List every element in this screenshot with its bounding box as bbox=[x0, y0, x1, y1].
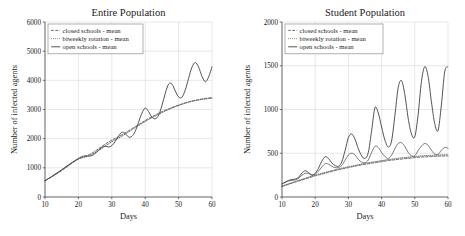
y-axis-label: Number of infected agents bbox=[243, 65, 252, 154]
legend-label: open schools - mean bbox=[300, 43, 355, 50]
legend-label: open schools - mean bbox=[63, 43, 118, 50]
y-tick-label: 2000 bbox=[264, 19, 279, 27]
y-tick-label: 1000 bbox=[27, 164, 42, 172]
legend-label: biweekly rotation - mean bbox=[63, 35, 130, 42]
chart-title: Entire Population bbox=[92, 7, 167, 18]
x-tick-label: 10 bbox=[41, 201, 49, 209]
y-tick-label: 2000 bbox=[27, 135, 42, 143]
student-population-plot: 0500100015002000102030405060Student Popu… bbox=[232, 0, 465, 236]
y-axis-label: Number of infected agents bbox=[10, 65, 19, 154]
y-tick-label: 500 bbox=[267, 150, 278, 158]
chart-legend: closed schools - meanbiweekly rotation -… bbox=[48, 24, 143, 54]
chart-legend: closed schools - meanbiweekly rotation -… bbox=[285, 24, 383, 54]
figure-container: 0100020003000400050006000102030405060Ent… bbox=[0, 0, 465, 236]
legend-label: closed schools - mean bbox=[300, 27, 359, 34]
x-tick-label: 50 bbox=[411, 201, 419, 209]
x-tick-label: 30 bbox=[345, 201, 353, 209]
x-tick-label: 40 bbox=[142, 201, 150, 209]
chart-panel-entire-population: 0100020003000400050006000102030405060Ent… bbox=[0, 0, 232, 236]
series-line-2 bbox=[45, 98, 212, 180]
legend-label: closed schools - mean bbox=[63, 27, 122, 34]
series-group bbox=[282, 67, 448, 187]
x-tick-label: 40 bbox=[378, 201, 386, 209]
x-axis-label: Days bbox=[120, 212, 137, 221]
entire-population-plot: 0100020003000400050006000102030405060Ent… bbox=[0, 0, 232, 236]
x-tick-label: 10 bbox=[278, 201, 286, 209]
x-tick-label: 30 bbox=[108, 201, 116, 209]
legend-label: biweekly rotation - mean bbox=[300, 35, 367, 42]
series-line-2 bbox=[282, 155, 448, 186]
y-tick-label: 4000 bbox=[27, 77, 42, 85]
x-tick-label: 20 bbox=[75, 201, 83, 209]
y-tick-label: 5000 bbox=[27, 48, 42, 56]
y-tick-label: 1500 bbox=[264, 62, 279, 70]
x-axis-label: Days bbox=[356, 212, 373, 221]
x-tick-label: 60 bbox=[444, 201, 452, 209]
x-tick-label: 20 bbox=[312, 201, 320, 209]
chart-panel-student-population: 0500100015002000102030405060Student Popu… bbox=[232, 0, 465, 236]
series-line-3 bbox=[282, 67, 448, 184]
y-tick-label: 1000 bbox=[264, 106, 279, 114]
y-tick-label: 3000 bbox=[27, 106, 42, 114]
y-tick-label: 6000 bbox=[27, 19, 42, 27]
x-tick-label: 50 bbox=[175, 201, 183, 209]
chart-title: Student Population bbox=[325, 7, 406, 18]
series-line-1 bbox=[45, 98, 212, 181]
x-tick-label: 60 bbox=[208, 201, 216, 209]
